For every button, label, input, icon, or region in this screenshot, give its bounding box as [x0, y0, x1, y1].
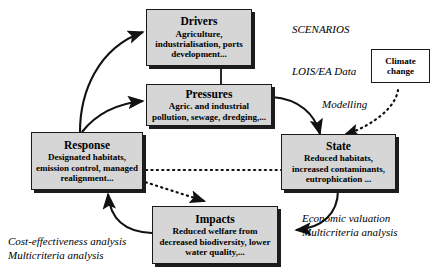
- node-response-description: Designated habitats, emission control, m…: [35, 152, 139, 183]
- arrow-impacts-to-response: [108, 194, 152, 233]
- annotation-cost-effectiveness: Cost-effectiveness analysis Multicriteri…: [8, 235, 126, 262]
- node-drivers-description: Agriculture, industrialisation, ports de…: [150, 29, 248, 60]
- node-drivers[interactable]: Drivers Agriculture, industrialisation, …: [146, 9, 252, 66]
- node-impacts[interactable]: Impacts Reduced welfare from decreased b…: [152, 206, 278, 264]
- node-impacts-description: Reduced welfare from decreased biodivers…: [156, 226, 274, 257]
- annotation-modelling: Modelling: [322, 98, 367, 112]
- annotation-economic-valuation: Economic valuation Multicriteria analysi…: [302, 212, 398, 239]
- node-state[interactable]: State Reduced habitats, increased contam…: [281, 134, 396, 190]
- node-pressures[interactable]: Pressures Agric. and industrial pollutio…: [146, 84, 272, 126]
- annotation-lois-ea-data: LOIS/EA Data: [292, 65, 356, 79]
- arrow-pressures-to-state: [272, 97, 320, 134]
- node-pressures-description: Agric. and industrial pollution, sewage,…: [150, 101, 268, 122]
- annotation-scenarios: SCENARIOS: [292, 23, 349, 37]
- node-climate-change-label: Climate change: [385, 56, 416, 77]
- arrow-response-to-drivers: [80, 32, 143, 132]
- dpsir-diagram: Drivers Agriculture, industrialisation, …: [0, 0, 438, 278]
- node-climate-change[interactable]: Climate change: [371, 49, 430, 83]
- node-response-title: Response: [64, 139, 110, 152]
- node-impacts-title: Impacts: [195, 213, 235, 226]
- node-state-description: Reduced habitats, increased contaminants…: [285, 153, 392, 184]
- node-drivers-title: Drivers: [180, 15, 217, 28]
- arrow-response-to-pressures: [82, 101, 143, 132]
- node-pressures-title: Pressures: [186, 88, 233, 101]
- arrow-climate-change-to-state-dotted: [345, 90, 398, 135]
- node-state-title: State: [326, 140, 351, 153]
- node-response[interactable]: Response Designated habitats, emission c…: [31, 132, 143, 190]
